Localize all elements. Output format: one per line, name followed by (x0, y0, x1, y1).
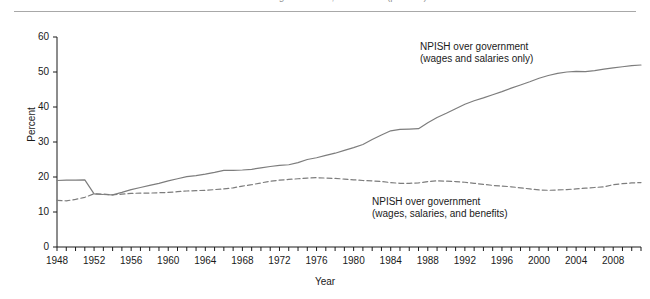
annotation-dashed-line1: NPISH over government (372, 196, 480, 207)
y-tick-label: 0 (9, 241, 49, 252)
annotation-solid-line2: (wages and salaries only) (420, 53, 533, 65)
chart-figure: NPISH over government, 1948-2011 (percen… (0, 0, 650, 299)
y-axis-label: Percent (26, 85, 37, 165)
x-tick-label: 1980 (334, 255, 374, 266)
x-tick-label: 1964 (185, 255, 225, 266)
annotation-dashed-series: NPISH over government (wages, salaries, … (372, 196, 508, 220)
x-tick-label: 1984 (371, 255, 411, 266)
y-tick-label: 40 (9, 101, 49, 112)
x-tick-label: 1976 (297, 255, 337, 266)
series-line-dashed (57, 178, 641, 201)
x-tick-label: 2004 (556, 255, 596, 266)
x-tick-label: 1952 (74, 255, 114, 266)
y-tick-label: 10 (9, 206, 49, 217)
x-axis-label: Year (0, 276, 650, 287)
x-tick-label: 1948 (37, 255, 77, 266)
x-tick-label: 1960 (148, 255, 188, 266)
y-tick-label: 20 (9, 171, 49, 182)
x-tick-label: 2000 (519, 255, 559, 266)
annotation-solid-line1: NPISH over government (420, 41, 528, 52)
x-tick-label: 1956 (111, 255, 151, 266)
y-tick-label: 50 (9, 66, 49, 77)
x-tick-label: 1996 (482, 255, 522, 266)
x-tick-label: 1972 (259, 255, 299, 266)
x-tick-label: 2008 (593, 255, 633, 266)
x-tick-label: 1988 (408, 255, 448, 266)
annotation-solid-series: NPISH over government (wages and salarie… (420, 41, 533, 65)
y-tick-label: 60 (9, 31, 49, 42)
x-tick-label: 1992 (445, 255, 485, 266)
y-tick-label: 30 (9, 136, 49, 147)
x-tick-label: 1968 (222, 255, 262, 266)
series-line-solid (57, 65, 641, 195)
annotation-dashed-line2: (wages, salaries, and benefits) (372, 208, 508, 220)
